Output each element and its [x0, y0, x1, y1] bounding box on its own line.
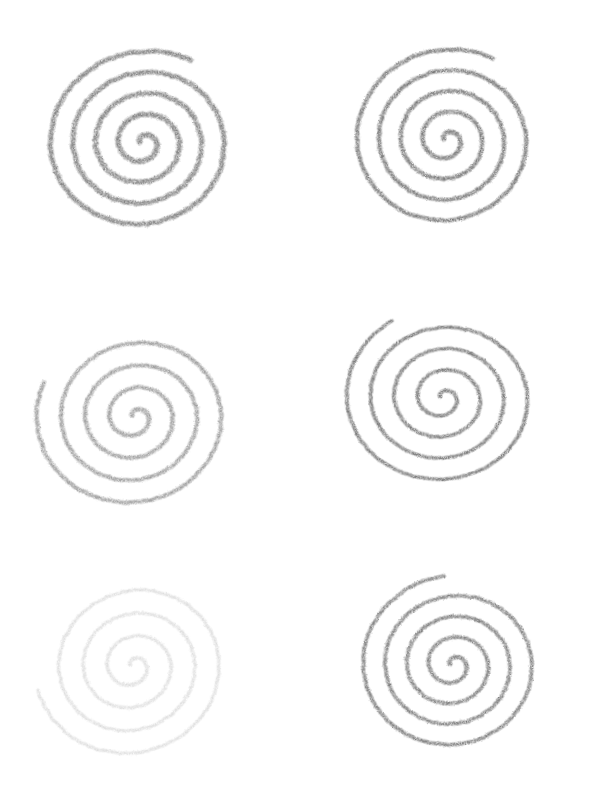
- spiral-middle-right: [323, 278, 563, 518]
- spiral-top-right: [330, 23, 564, 257]
- spiral-bottom-left: [15, 548, 251, 784]
- spiral-middle-left: [15, 297, 255, 537]
- spiral-bottom-right: [338, 550, 568, 780]
- spiral-top-left: [23, 23, 263, 263]
